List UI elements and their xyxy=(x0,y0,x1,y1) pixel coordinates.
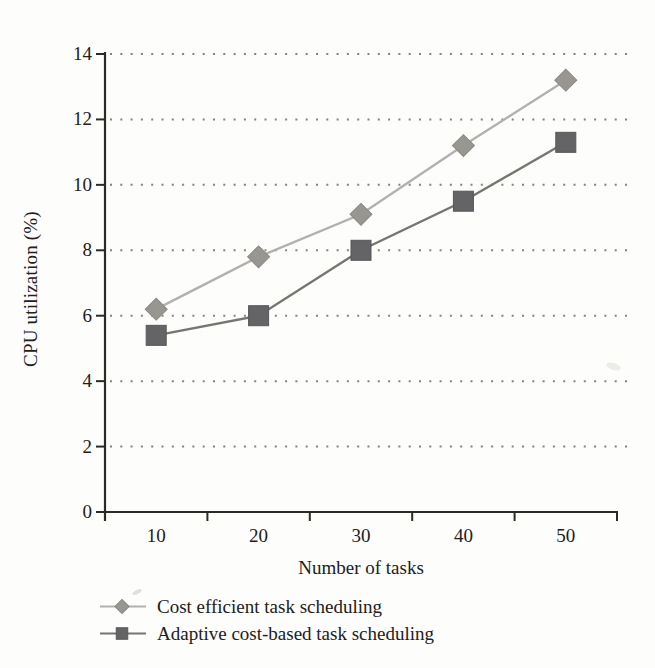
diamond-marker-icon xyxy=(99,594,147,619)
x-tick-label: 20 xyxy=(227,525,291,547)
chart-figure: 02468101214 1020304050 CPU utilization (… xyxy=(0,0,655,668)
data-point-diamond-50 xyxy=(555,69,577,91)
y-tick-label: 10 xyxy=(0,174,92,196)
data-point-square-20 xyxy=(249,306,269,326)
data-point-square-10 xyxy=(146,325,166,345)
data-point-diamond-10 xyxy=(145,298,167,320)
x-tick-label: 10 xyxy=(124,525,188,547)
legend-item-cost-efficient: Cost efficient task scheduling xyxy=(99,594,434,619)
x-axis-title: Number of tasks xyxy=(298,557,424,579)
y-axis-title: CPU utilization (%) xyxy=(20,211,42,367)
data-point-diamond-30 xyxy=(350,203,372,225)
legend-square-marker xyxy=(116,628,128,640)
legend: Cost efficient task scheduling Adaptive … xyxy=(99,594,434,646)
y-tick-label: 8 xyxy=(0,239,92,261)
data-point-square-30 xyxy=(351,240,371,260)
series-line-1 xyxy=(156,142,566,335)
legend-label: Adaptive cost-based task scheduling xyxy=(157,623,434,645)
legend-label: Cost efficient task scheduling xyxy=(157,596,382,618)
legend-item-adaptive-cost-based: Adaptive cost-based task scheduling xyxy=(99,621,434,646)
page: { "chart_data": { "type": "line", "title… xyxy=(0,0,655,668)
square-marker-icon xyxy=(99,621,147,646)
data-point-square-40 xyxy=(453,191,473,211)
y-tick-label: 14 xyxy=(0,43,92,65)
data-point-diamond-40 xyxy=(452,135,474,157)
x-tick-label: 30 xyxy=(329,525,393,547)
data-point-diamond-20 xyxy=(248,246,270,268)
y-tick-label: 6 xyxy=(0,305,92,327)
y-tick-label: 12 xyxy=(0,108,92,130)
y-tick-label: 2 xyxy=(0,436,92,458)
y-tick-label: 0 xyxy=(0,501,92,523)
x-tick-label: 40 xyxy=(431,525,495,547)
series-line-0 xyxy=(156,80,566,309)
y-tick-label: 4 xyxy=(0,370,92,392)
x-tick-label: 50 xyxy=(534,525,598,547)
legend-diamond-marker xyxy=(115,599,129,613)
data-point-square-50 xyxy=(556,132,576,152)
